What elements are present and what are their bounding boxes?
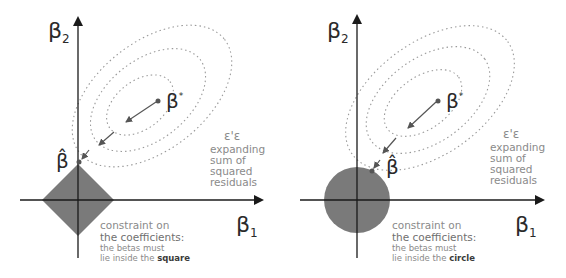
descent-arrows: [374, 102, 436, 168]
y-axis-label: β2: [327, 18, 349, 46]
estimate-label: β̂: [386, 154, 399, 179]
y-axis-label: β2: [48, 18, 70, 46]
rss-annotation: ε'ε expanding sum of squared residuals: [490, 127, 545, 186]
estimate-point: [77, 160, 82, 165]
svg-text:the coefficients:: the coefficients:: [100, 231, 184, 243]
svg-text:the betas must: the betas must: [100, 243, 165, 253]
svg-text:the coefficients:: the coefficients:: [392, 231, 476, 243]
descent-arrows: [82, 102, 156, 159]
svg-text:residuals: residuals: [490, 174, 537, 186]
ols-label: β*: [166, 89, 184, 113]
x-axis-label: β1: [236, 212, 258, 240]
svg-text:constraint on: constraint on: [100, 219, 169, 231]
constraint-annotation: constraint on the coefficients: the beta…: [392, 219, 476, 263]
svg-text:lie inside the square: lie inside the square: [100, 253, 190, 263]
svg-text:constraint on: constraint on: [392, 219, 461, 231]
ols-point: [436, 99, 441, 104]
constraint-annotation: constraint on the coefficients: the beta…: [100, 219, 190, 263]
panel-ridge: β2 β1 β* β̂ ε'ε expanding sum of squared…: [300, 0, 545, 263]
ols-point: [156, 99, 161, 104]
svg-text:ε'ε: ε'ε: [503, 127, 519, 141]
regularization-diagram: β2 β1 β* β̂ ε'ε expanding sum of squared…: [0, 0, 566, 278]
estimate-label: β̂: [56, 148, 69, 173]
panel-lasso: β2 β1 β* β̂ ε'ε expanding sum of squared…: [20, 0, 265, 263]
svg-text:ε'ε: ε'ε: [224, 129, 240, 143]
x-axis-label: β1: [515, 212, 537, 240]
svg-text:lie inside the circle: lie inside the circle: [392, 253, 475, 263]
svg-text:the betas must: the betas must: [392, 243, 457, 253]
estimate-point: [370, 169, 375, 174]
rss-annotation: ε'ε expanding sum of squared residuals: [210, 129, 265, 188]
svg-text:residuals: residuals: [210, 176, 257, 188]
ols-label: β*: [446, 89, 464, 113]
